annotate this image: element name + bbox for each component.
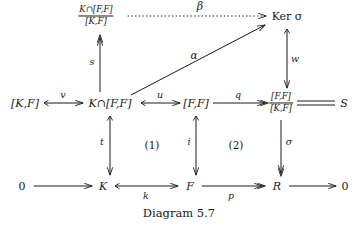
arrow-label-sigma: σ (286, 137, 293, 147)
arrow-label-s: s (90, 57, 95, 67)
node-s-object: S (340, 98, 348, 109)
node-kf: [K,F] (11, 98, 39, 109)
arrow-label-w: w (291, 54, 299, 64)
node-k: K (99, 181, 107, 192)
node-ff: [F,F] (183, 98, 209, 109)
node-ker-sigma: Ker σ (272, 11, 303, 22)
node-zero-left: 0 (19, 181, 26, 192)
arrow-label-i: i (187, 137, 190, 147)
node-quotient-ff-over-kf: [F,F] [K,F] (269, 92, 293, 113)
diagram-canvas (0, 0, 359, 228)
quotient-numerator: K∩[F,F] (78, 5, 113, 16)
node-zero-right: 0 (342, 181, 349, 192)
quotient-ff-denominator: [K,F] (269, 104, 293, 114)
arrow-label-v: v (60, 90, 65, 100)
arrow-label-p: p (228, 191, 234, 201)
arrow-label-t: t (100, 137, 104, 147)
node-r: R (273, 181, 281, 192)
arrow-label-u: u (157, 90, 163, 100)
equality-line (297, 101, 335, 105)
quotient-denominator: [K,F] (78, 17, 113, 27)
node-f: F (186, 181, 194, 192)
arrow-label-alpha: α (190, 50, 197, 61)
diagram-caption: Diagram 5.7 (143, 208, 215, 220)
diagram-page: K∩[F,F] [K,F] Ker σ [K,F] K∩[F,F] [F,F] … (0, 0, 359, 228)
arrow-label-beta: β (197, 1, 203, 12)
node-k-cap-ff: K∩[F,F] (88, 98, 131, 109)
region-label-2: (2) (229, 140, 244, 151)
region-label-1: (1) (145, 140, 160, 151)
node-quotient-k-cap-ff-over-kf: K∩[F,F] [K,F] (78, 5, 113, 26)
quotient-ff-numerator: [F,F] (269, 92, 293, 103)
arrow-alpha (131, 25, 265, 95)
arrow-label-k-map: k (143, 191, 149, 201)
arrow-label-q: q (235, 90, 241, 100)
